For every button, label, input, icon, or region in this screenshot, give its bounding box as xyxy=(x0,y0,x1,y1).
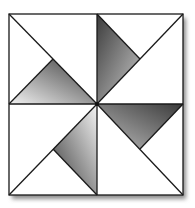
pinwheel-svg xyxy=(0,0,195,208)
center-point xyxy=(95,102,99,106)
pinwheel-diagram xyxy=(0,0,195,208)
